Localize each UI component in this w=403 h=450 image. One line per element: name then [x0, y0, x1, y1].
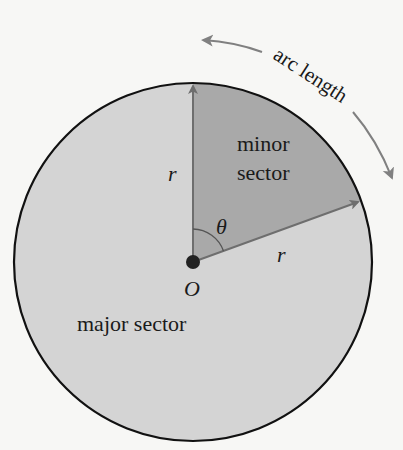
minor-sector-label-line2: sector: [237, 160, 290, 185]
radius-label-vertical: r: [168, 161, 177, 186]
center-dot: [186, 255, 200, 269]
radius-label-slanted: r: [277, 242, 286, 267]
angle-label-theta: θ: [216, 214, 227, 239]
center-label: O: [184, 276, 200, 301]
arc-length-arrow-left: [203, 40, 262, 52]
minor-sector-label-line1: minor: [237, 131, 290, 156]
arc-length-label: arc length: [269, 42, 352, 108]
sector-diagram: arc length minor sector major sector r r…: [0, 0, 403, 450]
diagram-canvas: arc length minor sector major sector r r…: [0, 0, 403, 450]
major-sector-label: major sector: [77, 311, 187, 336]
arc-length-arrow-right: [353, 112, 392, 178]
